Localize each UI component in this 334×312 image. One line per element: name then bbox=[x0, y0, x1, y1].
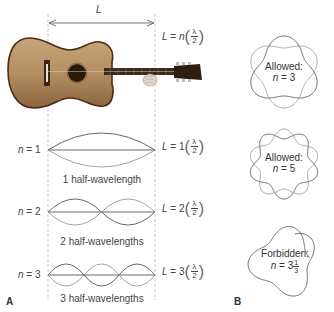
mode-n1-caption: 1 half-wavelength bbox=[22, 174, 182, 185]
circle-n3-status: Allowed: bbox=[249, 61, 319, 72]
guitar-image bbox=[8, 38, 202, 108]
lambda-over-two: λ 2 bbox=[191, 28, 198, 45]
mode-n2-equation: L = 2 (λ2) bbox=[162, 200, 204, 217]
panel-b-letter: B bbox=[234, 296, 241, 307]
general-equation: L = n ( λ 2 ) bbox=[162, 28, 204, 45]
mode-n1-equation: L = 1 (λ2) bbox=[162, 138, 204, 155]
length-label: L bbox=[96, 4, 102, 15]
circle-n5-label: Allowed: n = 5 bbox=[249, 152, 319, 174]
mode-n3-label: n = 3 bbox=[18, 269, 41, 280]
circle-forbidden-label: Forbidden: n = 313 bbox=[250, 248, 320, 274]
mode-n2-caption: 2 half-wavelengths bbox=[22, 236, 182, 247]
frac-den: 2 bbox=[192, 37, 196, 45]
standing-wave-n2 bbox=[48, 199, 155, 225]
mode-n1-label: n = 1 bbox=[18, 144, 41, 155]
standing-wave-n1 bbox=[48, 133, 155, 167]
hand-icon bbox=[143, 74, 157, 86]
circle-forbidden-status: Forbidden: bbox=[250, 248, 320, 259]
mode-n2-label: n = 2 bbox=[18, 206, 41, 217]
panel-a-letter: A bbox=[6, 296, 13, 307]
length-arrow bbox=[49, 20, 154, 26]
circle-n5-status: Allowed: bbox=[249, 152, 319, 163]
circle-n3-label: Allowed: n = 3 bbox=[249, 61, 319, 83]
frac-num: λ bbox=[192, 28, 196, 36]
standing-wave-n3 bbox=[48, 264, 155, 286]
mode-n3-equation: L = 3 (λ2) bbox=[162, 263, 204, 280]
mode-n3-caption: 3 half-wavelengths bbox=[22, 293, 182, 304]
